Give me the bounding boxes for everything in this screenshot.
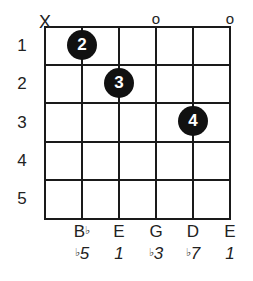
fret-number-3: 3: [12, 113, 32, 133]
note-name: E: [215, 222, 245, 242]
fret-line-5: [44, 218, 231, 220]
interval-label: 1: [104, 244, 134, 264]
note-name: G: [141, 222, 171, 242]
string-1: [44, 26, 46, 220]
note-name: D: [178, 222, 208, 242]
open-string-marker: o: [146, 12, 166, 26]
fret-line-3: [44, 141, 231, 143]
fret-line-2: [44, 102, 231, 104]
open-string-marker: o: [220, 12, 240, 26]
fret-number-1: 1: [12, 36, 32, 56]
interval-label: ♭7: [178, 244, 208, 264]
finger-dot: 2: [67, 30, 97, 60]
fret-number-4: 4: [12, 151, 32, 171]
interval-label: ♭3: [141, 244, 171, 264]
fret-number-5: 5: [12, 189, 32, 209]
string-4: [155, 26, 157, 220]
string-6: [229, 26, 231, 220]
fret-number-2: 2: [12, 74, 32, 94]
finger-dot: 4: [178, 106, 208, 136]
interval-label: 1: [215, 244, 245, 264]
string-3: [118, 26, 120, 220]
note-name: B♭: [67, 222, 97, 242]
note-name: E: [104, 222, 134, 242]
fret-line-1: [44, 64, 231, 66]
fret-line-4: [44, 179, 231, 181]
nut-line: [44, 26, 231, 28]
interval-label: ♭5: [67, 244, 97, 264]
muted-string-marker: X: [35, 15, 55, 29]
finger-dot: 3: [104, 68, 134, 98]
